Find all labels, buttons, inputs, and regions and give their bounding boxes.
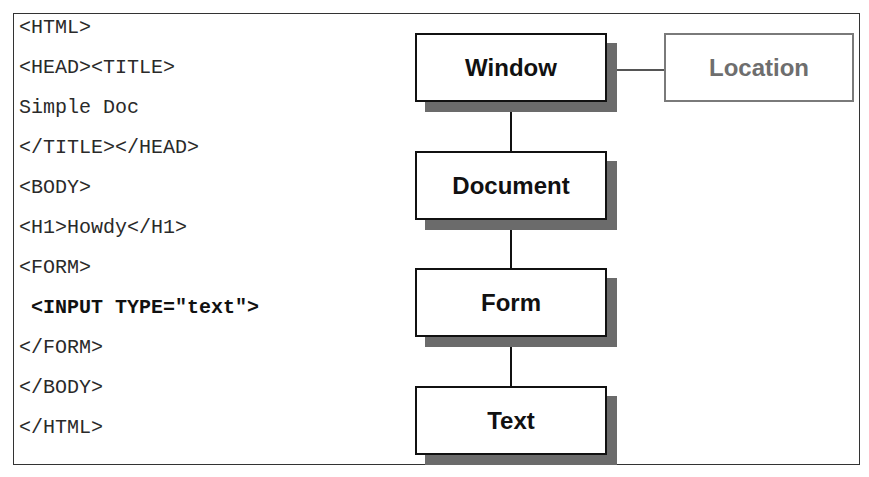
code-line: <FORM>: [19, 256, 91, 280]
location-node-label: Location: [709, 54, 809, 82]
code-line: </BODY>: [19, 376, 103, 400]
code-line: Simple Doc: [19, 96, 139, 120]
text-node: Text: [415, 386, 607, 455]
form-node-label: Form: [481, 289, 541, 317]
code-line: <HEAD><TITLE>: [19, 56, 175, 80]
code-line: <BODY>: [19, 176, 91, 200]
code-line-highlighted: <INPUT TYPE="text">: [19, 296, 259, 320]
code-line: <HTML>: [19, 16, 91, 40]
code-line: </TITLE></HEAD>: [19, 136, 199, 160]
document-node-label: Document: [452, 172, 569, 200]
document-node: Document: [415, 151, 607, 220]
window-node-label: Window: [465, 54, 557, 82]
text-node-label: Text: [487, 407, 535, 435]
code-line: <H1>Howdy</H1>: [19, 216, 187, 240]
form-node: Form: [415, 268, 607, 337]
code-line: </FORM>: [19, 336, 103, 360]
location-node: Location: [664, 33, 854, 102]
connector-window-location: [617, 69, 664, 71]
code-line: </HTML>: [19, 416, 103, 440]
window-node: Window: [415, 33, 607, 102]
